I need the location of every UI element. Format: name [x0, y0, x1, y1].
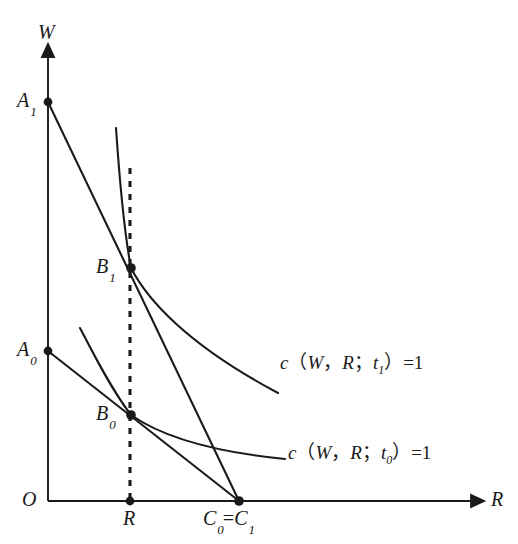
eq0-comma: ， [331, 442, 350, 463]
point-label-A1-subscript: 1 [30, 104, 37, 119]
isocost-line-t1 [48, 102, 239, 501]
point-label-B0-subscript: 0 [109, 417, 116, 432]
eq1-r: R [342, 352, 354, 373]
eq1-equals-one: =1 [403, 352, 423, 373]
eq0-close-paren: ） [392, 441, 411, 463]
eq0-w: W [315, 442, 331, 463]
eq1-close-paren: ） [384, 351, 403, 373]
isoquant-curve-t1 [116, 128, 278, 393]
c0-subscript: 0 [217, 522, 224, 537]
isoquant-isocost-figure: W R O A1 A0 B1 B0 R C0=C1 c（W，R；t1）=1 c（… [0, 0, 518, 544]
point-label-A0-base: A [17, 338, 29, 360]
point-label-B1: B1 [96, 256, 115, 280]
eq1-comma: ， [323, 352, 342, 373]
eq1-semicolon: ； [354, 352, 373, 373]
c1-subscript: 1 [248, 522, 255, 537]
point-dot-B1 [126, 263, 136, 273]
tick-label-R: R [123, 508, 135, 528]
point-dot-C0C1 [234, 496, 244, 506]
point-dot-A0 [44, 347, 53, 356]
point-label-B1-subscript: 1 [109, 270, 116, 285]
eq1-t-subscript: 1 [378, 363, 384, 377]
eq0-equals-one: =1 [411, 442, 431, 463]
eq0-open-paren: （ [296, 441, 315, 463]
eq0-r: R [350, 442, 362, 463]
isoquant-t1-equation-label: c（W，R；t1）=1 [280, 353, 423, 372]
isocost-line-t0 [48, 351, 239, 501]
origin-label: O [22, 489, 36, 509]
eq0-t-subscript: 0 [386, 453, 392, 467]
point-label-A0-subscript: 0 [30, 353, 37, 368]
eq1-open-paren: （ [288, 351, 307, 373]
y-axis-label: W [38, 22, 55, 42]
c-equals-sign: = [223, 507, 234, 529]
point-dot-B0 [126, 410, 136, 420]
point-label-A1-base: A [17, 89, 29, 111]
c0-base: C [203, 507, 216, 529]
point-label-B0: B0 [96, 403, 115, 427]
point-dot-R [126, 497, 135, 506]
tick-label-C0-equals-C1: C0=C1 [203, 508, 254, 532]
isoquant-t0-equation-label: c（W，R；t0）=1 [288, 443, 431, 462]
point-dot-A1 [44, 98, 53, 107]
isoquant-curve-t0 [80, 328, 285, 459]
eq0-semicolon: ； [362, 442, 381, 463]
x-axis-label: R [491, 489, 503, 509]
c1-base: C [234, 507, 247, 529]
diagram-canvas [0, 0, 518, 544]
point-label-B1-base: B [96, 255, 108, 277]
eq1-w: W [307, 352, 323, 373]
point-label-A0: A0 [17, 339, 36, 363]
point-label-A1: A1 [17, 90, 36, 114]
point-label-B0-base: B [96, 402, 108, 424]
